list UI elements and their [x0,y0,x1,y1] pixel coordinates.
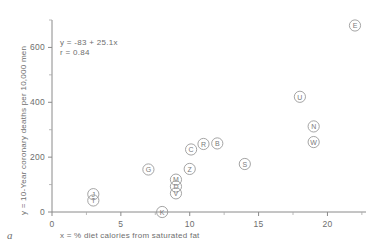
plot-canvas: 051015200200400600 x = % diet calories f… [0,0,371,251]
x-tick-label: 15 [254,219,264,229]
data-point-e: E [349,20,360,31]
marker-label-b: B [215,140,220,147]
data-point-z: Z [184,163,195,174]
data-point-t: T [88,195,99,206]
data-points: JTGKMDVZCRBSUNWE [88,20,361,218]
data-point-b: B [212,138,223,149]
marker-label-n: N [311,123,316,130]
marker-label-u: U [297,94,302,101]
y-axis-title: y = 10-Year coronary deaths per 10,000 m… [19,46,28,215]
annotation-line: r = 0.84 [60,48,90,57]
scatter-plot-figure: 051015200200400600 x = % diet calories f… [0,0,371,251]
y-tick-label: 400 [30,97,45,107]
marker-label-v: V [174,190,179,197]
data-point-r: R [198,138,209,149]
y-tick-label: 0 [40,207,45,217]
marker-label-z: Z [188,166,193,173]
axis-titles: x = % diet calories from saturated faty … [19,46,200,240]
marker-label-s: S [242,161,247,168]
marker-label-e: E [353,22,358,29]
data-point-v: V [170,188,181,199]
axis-ticks [48,20,362,216]
x-tick-label: 5 [118,219,123,229]
marker-label-r: R [201,141,206,148]
marker-label-t: T [91,197,96,204]
panel-label: a [7,229,13,241]
regression-annotation: y = -83 + 25.1xr = 0.84 [60,38,118,57]
data-point-u: U [294,91,305,102]
marker-label-k: K [160,209,165,216]
data-point-w: W [308,136,319,147]
x-axis-title: x = % diet calories from saturated fat [60,231,200,240]
x-tick-label: 0 [49,219,54,229]
marker-label-w: W [310,139,317,146]
marker-label-c: C [189,146,194,153]
x-tick-label: 10 [185,219,195,229]
axes [52,20,366,212]
annotation-line: y = -83 + 25.1x [60,38,118,47]
data-point-c: C [185,144,196,155]
x-tick-label: 20 [322,219,332,229]
y-tick-label: 200 [30,152,45,162]
marker-label-g: G [146,166,151,173]
data-point-s: S [239,158,250,169]
y-tick-label: 600 [30,42,45,52]
axis-tick-labels: 051015200200400600 [30,42,333,229]
data-point-n: N [308,121,319,132]
data-point-g: G [143,164,154,175]
